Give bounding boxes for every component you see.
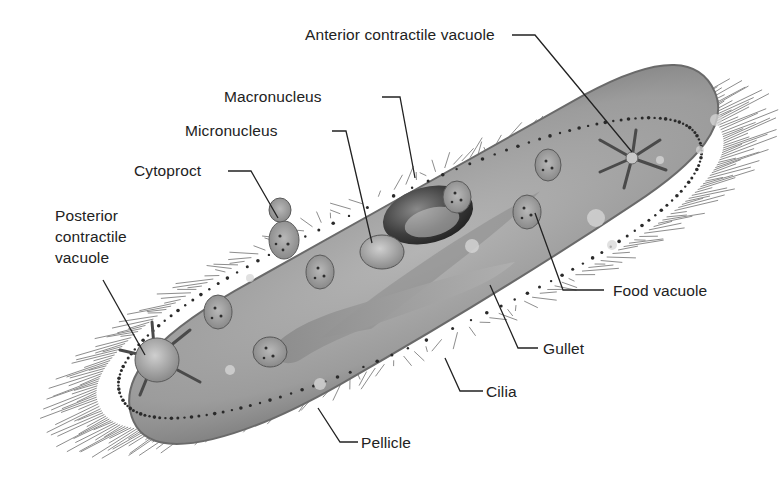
label-macronucleus: Macronucleus xyxy=(224,88,322,106)
cell-body xyxy=(86,45,763,471)
food-vacuole xyxy=(306,255,334,289)
food-vacuole xyxy=(513,195,541,229)
label-pellicle: Pellicle xyxy=(361,434,411,452)
label-micronucleus: Micronucleus xyxy=(185,122,278,140)
label-posterior-contractile-vacuole: Posterior contractile vacuole xyxy=(55,205,127,268)
cytoproct xyxy=(269,198,291,222)
label-food-vacuole: Food vacuole xyxy=(613,282,707,300)
food-vacuole xyxy=(443,181,471,213)
label-cytoproct: Cytoproct xyxy=(134,162,201,180)
label-cilia: Cilia xyxy=(486,383,517,401)
micronucleus xyxy=(360,235,404,269)
label-anterior-contractile-vacuole: Anterior contractile vacuole xyxy=(305,26,495,44)
leader-line-cilia xyxy=(445,358,483,391)
pellicle-outline xyxy=(86,45,763,471)
leader-line-macronucleus xyxy=(382,97,415,178)
label-gullet: Gullet xyxy=(543,340,584,358)
food-vacuole xyxy=(204,295,232,329)
leader-line-gullet xyxy=(490,285,538,348)
food-vacuole xyxy=(269,221,299,259)
food-vacuole xyxy=(535,149,561,181)
gullet-vacuole xyxy=(253,337,287,367)
leader-line-pellicle xyxy=(318,408,358,442)
